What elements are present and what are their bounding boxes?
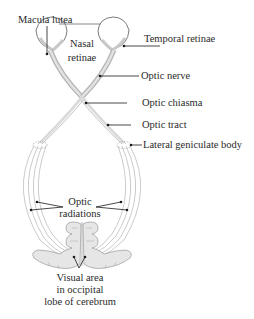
label-nasal-retinae-line2: retinae [62,52,102,63]
label-optic-radiations-line1: Optic [54,196,106,207]
visual-pathway-diagram [0,0,254,319]
label-temporal-retinae: Temporal retinae [144,33,215,44]
label-optic-nerve: Optic nerve [141,70,190,81]
label-visual-area-line3: lobe of cerebrum [30,296,130,307]
label-optic-chiasma: Optic chiasma [142,97,202,108]
label-nasal-retinae-line1: Nasal [62,38,102,49]
label-visual-area-line2: in occipital [40,284,120,295]
label-optic-radiations-line2: radiations [54,208,106,219]
label-optic-tract: Optic tract [142,119,187,130]
label-lateral-geniculate-body: Lateral geniculate body [143,139,242,150]
label-visual-area-line1: Visual area [40,272,120,283]
optic-tracts-shade [40,97,124,143]
label-macula-lutea: Macula lutea [18,14,73,25]
optic-tracts [38,97,126,144]
